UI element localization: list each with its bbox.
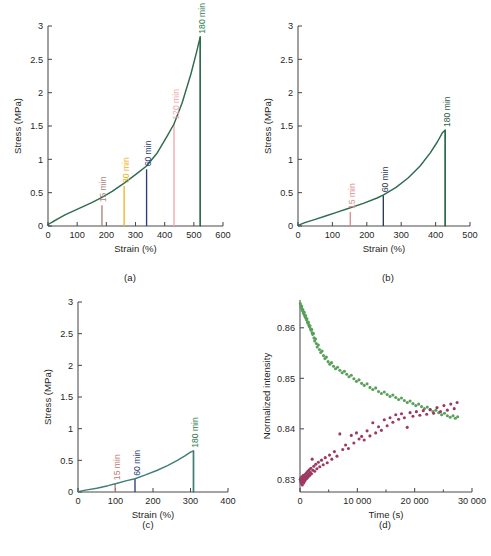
scatter-point	[314, 337, 317, 340]
scatter-point	[452, 414, 455, 417]
scatter-point	[355, 380, 358, 383]
x-tick-label: 600	[215, 230, 230, 240]
scatter-point	[420, 405, 423, 408]
scatter-point	[432, 412, 435, 415]
panel-c: 00.511.522.530100200300400Strain (%)Stre…	[30, 292, 250, 512]
scatter-point	[449, 403, 452, 406]
scatter-point	[313, 470, 316, 473]
scatter-point	[347, 447, 350, 450]
scatter-point	[415, 410, 418, 413]
y-tick-label: 1.5	[30, 121, 43, 131]
scatter-point	[442, 404, 445, 407]
panel-b: 00.511.522.530100200300400500Strain (%)S…	[250, 10, 491, 270]
scatter-point	[338, 369, 341, 372]
scatter-point	[330, 458, 333, 461]
x-tick-label: 30 000	[458, 496, 486, 506]
scatter-point	[386, 424, 389, 427]
scatter-point	[449, 416, 452, 419]
scatter-point	[446, 409, 449, 412]
scatter-point	[394, 413, 397, 416]
panel-a-plot: 00.511.522.530100200300400500600Strain (…	[0, 10, 250, 270]
x-tick-label: 300	[128, 230, 143, 240]
caption-b: (b)	[358, 272, 418, 283]
x-tick-label: 100	[108, 496, 123, 506]
scatter-point	[453, 407, 456, 410]
x-axis-title: Strain (%)	[363, 243, 406, 254]
y-axis-title: Normalized intensity	[261, 353, 272, 440]
scatter-point	[380, 392, 383, 395]
scatter-point	[406, 426, 409, 429]
scatter-point	[429, 408, 432, 411]
scatter-point	[374, 431, 377, 434]
annotation-label: 15 min	[347, 183, 357, 209]
scatter-point	[310, 472, 313, 475]
scatter-point	[352, 441, 355, 444]
caption-a: (a)	[100, 272, 160, 283]
scatter-point	[345, 373, 348, 376]
scatter-point	[443, 412, 446, 415]
scatter-point	[435, 406, 438, 409]
y-tick-label: 3	[288, 21, 293, 31]
scatter-point	[317, 343, 320, 346]
scatter-point	[318, 348, 321, 351]
y-tick-label: 3	[68, 297, 73, 307]
y-tick-label: 1.5	[60, 392, 73, 402]
annotation-label: 60 min	[143, 140, 153, 166]
y-tick-label: 1	[38, 155, 43, 165]
y-tick-label: 1	[288, 155, 293, 165]
y-axis-title: Stress (MPa)	[42, 369, 53, 425]
scatter-point	[321, 349, 324, 352]
scatter-point	[397, 398, 400, 401]
panel-d-plot: 0.830.840.850.86010 00020 00030 000Time …	[248, 292, 491, 512]
x-tick-label: 200	[145, 496, 160, 506]
scatter-point	[368, 434, 371, 437]
scatter-point	[333, 450, 336, 453]
scatter-point	[409, 400, 412, 403]
scatter-point	[330, 361, 333, 364]
x-tick-label: 500	[186, 230, 201, 240]
scatter-point	[377, 425, 380, 428]
panel-d: 0.830.840.850.86010 00020 00030 000Time …	[248, 292, 491, 512]
x-tick-label: 0	[75, 496, 80, 506]
y-tick-label: 0.5	[280, 188, 293, 198]
x-tick-label: 500	[462, 230, 477, 240]
scatter-point	[366, 429, 369, 432]
x-tick-label: 0	[297, 496, 302, 506]
y-tick-label: 0.5	[60, 456, 73, 466]
scatter-point	[403, 416, 406, 419]
y-tick-label: 0.86	[277, 323, 295, 333]
scatter-point	[439, 410, 442, 413]
scatter-point	[310, 328, 313, 331]
y-tick-label: 2	[38, 88, 43, 98]
annotation-label: 180 min	[442, 96, 452, 127]
y-tick-label: 2	[288, 88, 293, 98]
scatter-point	[386, 393, 389, 396]
y-tick-label: 0	[38, 221, 43, 231]
x-tick-label: 0	[45, 230, 50, 240]
scatter-point	[409, 411, 412, 414]
scatter-point	[440, 413, 443, 416]
x-tick-label: 10 000	[343, 496, 371, 506]
scatter-point	[366, 382, 369, 385]
scatter-point	[426, 406, 429, 409]
x-tick-label: 400	[428, 230, 443, 240]
scatter-point	[307, 321, 310, 324]
scatter-point	[388, 416, 391, 419]
x-tick-label: 0	[295, 230, 300, 240]
scatter-point	[322, 354, 325, 357]
y-tick-label: 0	[68, 487, 73, 497]
scatter-point	[303, 311, 306, 314]
annotation-label: 180 min	[190, 417, 200, 448]
scatter-point	[358, 437, 361, 440]
x-axis-title: Strain (%)	[114, 243, 157, 254]
scatter-point	[341, 448, 344, 451]
scatter-point	[363, 384, 366, 387]
y-tick-label: 3	[38, 21, 43, 31]
y-tick-label: 2.5	[30, 55, 43, 65]
scatter-point	[391, 393, 394, 396]
x-tick-label: 20 000	[401, 496, 429, 506]
y-tick-label: 0.83	[277, 475, 295, 485]
scatter-point	[400, 412, 403, 415]
scatter-point	[305, 317, 308, 320]
annotation-label: 180 min	[197, 3, 207, 34]
